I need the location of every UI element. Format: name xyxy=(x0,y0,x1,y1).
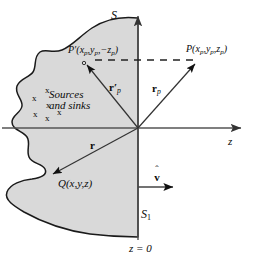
plane-equation-label: z = 0 xyxy=(129,243,152,254)
source-sink-marker: x xyxy=(57,108,62,117)
source-sink-marker: x xyxy=(32,94,37,103)
vector-r-p-label: rp xyxy=(152,83,161,96)
point-P-prime-label: P′(xp,yp,−zp) xyxy=(68,45,118,57)
surface-S-label: S xyxy=(111,9,117,21)
q-body: (x,y,z) xyxy=(66,177,92,189)
p-close: ) xyxy=(224,43,227,54)
vector-r-p-arrow xyxy=(138,64,195,128)
surface-S1-label: S1 xyxy=(141,208,151,222)
v-symbol: v xyxy=(152,172,162,183)
point-Q-label: Q(x,y,z) xyxy=(58,178,92,189)
vector-r-prime-p-label: r′p xyxy=(109,82,121,95)
vector-r-label: r xyxy=(90,140,95,151)
source-sink-marker: x xyxy=(33,110,38,119)
q-head: Q xyxy=(58,177,66,189)
surface-S1-subscript: 1 xyxy=(147,213,151,222)
point-P-label: P(xp,yp,zp) xyxy=(186,44,227,56)
source-sink-marker: x xyxy=(46,101,51,110)
p-prime-z: −z xyxy=(101,44,112,55)
figure-canvas: S S1 P′(xp,yp,−zp) P(xp,yp,zp) Q(x,y,z) … xyxy=(0,0,253,265)
p-prime-close: ) xyxy=(115,44,118,55)
r-p-subscript: p xyxy=(157,87,161,96)
diagram-svg xyxy=(0,0,253,265)
unit-normal-v-label: ˆ v xyxy=(152,167,162,183)
r-prime-p-subscript: p xyxy=(117,86,121,95)
source-sink-marker: x xyxy=(45,86,50,95)
z-axis-label: z xyxy=(228,136,232,147)
sources-and-sinks-line2: and sinks xyxy=(49,100,90,111)
source-sink-marker: x xyxy=(45,114,50,123)
